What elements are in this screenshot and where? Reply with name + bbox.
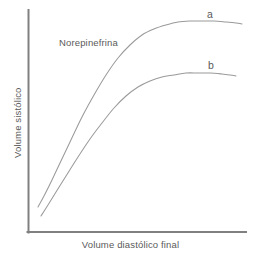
curve-b-label: b [208, 60, 214, 71]
curve-a-line [38, 21, 242, 207]
plot-area [0, 0, 261, 258]
norepinefrina-annotation: Norepinefrina [59, 38, 118, 48]
figure-container: a b Norepinefrina Volume diastólico fina… [0, 0, 261, 258]
curve-a-label: a [207, 9, 213, 20]
x-axis-title: Volume diastólico final [0, 240, 261, 250]
curve-b-line [41, 73, 236, 216]
y-axis-title: Volume sistólico [13, 63, 23, 183]
